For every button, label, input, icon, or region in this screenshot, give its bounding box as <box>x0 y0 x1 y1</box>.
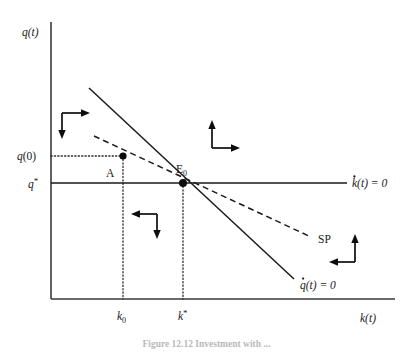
curve-kdot-zero: k(t) = 0 <box>51 175 387 190</box>
y-tick-label-q0: q(0) <box>17 150 36 163</box>
y-tick-labels-group: q(0) q* <box>17 150 39 191</box>
arrow-group-lower-right <box>329 234 359 266</box>
x-tick-k0-subscript: 0 <box>122 316 126 325</box>
y-axis-label: q(t) <box>22 26 39 39</box>
arrow-upper-left-down-head <box>58 130 65 139</box>
figure-root: q(t) k(t) k(t) = 0 q(t) = 0 <box>0 0 413 352</box>
kdot-zero-label: k(t) = 0 <box>352 177 387 190</box>
curve-qdot-zero: q(t) = 0 <box>89 88 336 292</box>
arrow-group-upper-left <box>58 109 90 139</box>
guide-lines-group <box>51 156 183 299</box>
point-E0-label-subscript: 0 <box>183 169 187 178</box>
saddle-path-label: SP <box>318 233 331 245</box>
y-tick-q0-paren: (0) <box>23 150 37 163</box>
qdot-zero-label: q(t) = 0 <box>300 279 336 292</box>
arrow-upper-right-right-head <box>231 144 240 151</box>
y-tick-qstar-asterisk: * <box>34 176 39 186</box>
arrow-lower-left-left-head <box>131 210 140 217</box>
arrow-group-upper-right <box>208 120 240 152</box>
point-A-dot <box>119 152 126 159</box>
arrow-lower-left-down-head <box>153 230 160 239</box>
x-tick-label-k0: k0 <box>117 310 126 325</box>
x-tick-label-kstar: k* <box>178 308 188 322</box>
qdot-zero-label-rest: (t) = 0 <box>306 279 336 292</box>
x-tick-labels-group: k0 k* <box>117 308 188 325</box>
arrow-group-lower-left <box>131 210 161 239</box>
kdot-zero-label-rest: (t) = 0 <box>357 177 387 190</box>
point-E0-dot <box>179 179 187 187</box>
points-group: A E0 <box>106 152 187 187</box>
arrow-lower-right-left-head <box>329 258 338 265</box>
saddle-path-line <box>94 136 311 237</box>
qdot-overdot-accent <box>302 277 304 279</box>
figure-caption: Figure 12.12 Investment with ... <box>0 338 413 352</box>
arrow-lower-right-up-head <box>351 234 358 243</box>
point-E0-label-main: E <box>176 163 183 175</box>
phase-diagram-canvas: q(t) k(t) k(t) = 0 q(t) = 0 <box>0 0 413 352</box>
point-A-label: A <box>106 167 115 179</box>
curve-saddle-path: SP <box>94 136 331 245</box>
arrow-upper-left-right-head <box>81 109 90 116</box>
arrow-upper-right-up-head <box>208 120 215 129</box>
y-tick-label-qstar: q* <box>28 176 39 191</box>
kdot-overdot-accent <box>353 175 355 177</box>
x-axis-label: k(t) <box>360 312 376 325</box>
x-tick-kstar-asterisk: * <box>183 308 188 318</box>
axes-group <box>51 22 395 299</box>
